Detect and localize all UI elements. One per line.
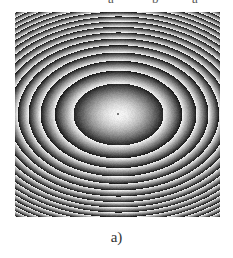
figure-caption: a) — [0, 229, 233, 246]
interference-fringe-image — [15, 12, 220, 217]
fragment-3: a — [192, 0, 198, 7]
fragment-2: b — [152, 0, 159, 7]
cropped-text-fragments: a b a — [0, 0, 233, 3]
fragment-1: a — [108, 0, 114, 7]
